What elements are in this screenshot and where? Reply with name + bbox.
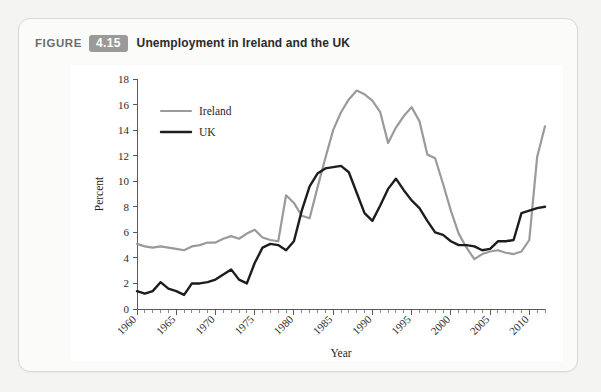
legend-label-uk: UK [199, 126, 216, 138]
x-tick-label: 1975 [232, 313, 256, 337]
legend-label-ireland: Ireland [199, 105, 232, 117]
figure-number-badge: 4.15 [89, 35, 128, 52]
x-tick-label: 2010 [507, 313, 531, 337]
x-tick-label: 1995 [389, 313, 413, 337]
y-tick-label: 8 [124, 201, 130, 213]
figure-caption: FIGURE 4.15 Unemployment in Ireland and … [35, 33, 350, 53]
x-tick-label: 1985 [311, 313, 335, 337]
line-chart: 024681012141618 196019651970197519801985… [71, 65, 563, 361]
page-background: FIGURE 4.15 Unemployment in Ireland and … [0, 0, 601, 392]
y-tick-label: 6 [124, 226, 130, 238]
x-tick-label: 1980 [271, 313, 295, 337]
x-tick-label: 1970 [193, 313, 217, 337]
chart-plot-panel: 024681012141618 196019651970197519801985… [71, 65, 563, 361]
chart-legend: IrelandUK [161, 105, 232, 138]
y-tick-label: 2 [124, 277, 130, 289]
x-tick-label: 1960 [114, 313, 138, 337]
series-lines [137, 91, 545, 295]
x-tick-label: 2005 [467, 313, 491, 337]
series-line-uk [137, 166, 545, 295]
x-axis-title: Year [330, 347, 351, 359]
y-tick-label: 4 [124, 252, 130, 264]
x-axis: 1960196519701975198019851990199520002005… [114, 309, 545, 337]
x-tick-label: 1990 [350, 313, 374, 337]
figure-caption-text: Unemployment in Ireland and the UK [137, 36, 350, 50]
y-axis-title: Percent [93, 176, 105, 211]
x-tick-label: 2000 [428, 313, 452, 337]
y-tick-label: 10 [118, 175, 130, 187]
y-axis: 024681012141618 [118, 73, 137, 315]
figure-card: FIGURE 4.15 Unemployment in Ireland and … [18, 18, 578, 372]
y-tick-label: 16 [118, 99, 130, 111]
figure-label: FIGURE [35, 37, 82, 49]
x-tick-label: 1965 [154, 313, 178, 337]
y-tick-label: 12 [118, 150, 129, 162]
y-tick-label: 18 [118, 73, 130, 85]
y-tick-label: 14 [118, 124, 130, 136]
